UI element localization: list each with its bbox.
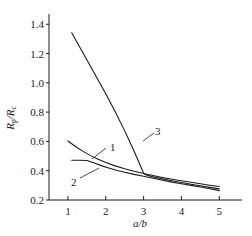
data-series-group <box>68 33 219 191</box>
leader-line-2 <box>80 168 99 178</box>
axis-lines <box>49 14 242 200</box>
leader-line-3 <box>143 133 154 141</box>
x-axis-title: a/b <box>133 218 147 229</box>
y-tick-label: 1.4 <box>18 19 44 30</box>
curve-label-2: 2 <box>71 177 77 188</box>
data-curve-2 <box>72 160 220 190</box>
y-tick-label: 0.4 <box>18 165 44 176</box>
y-axis-title-text: Rp/Rc <box>5 106 16 130</box>
x-tick-label: 5 <box>217 206 223 217</box>
data-curve-1 <box>68 141 219 187</box>
x-axis-ticks <box>68 196 219 200</box>
x-tick-label: 1 <box>65 206 71 217</box>
y-axis-title: Rp/Rc <box>2 88 18 148</box>
chart-figure: 0.20.40.60.81.01.21.4 12345 123 Rp/Rc a/… <box>0 0 252 236</box>
y-tick-label: 0.2 <box>18 195 44 206</box>
x-tick-label: 4 <box>179 206 185 217</box>
curve-label-3: 3 <box>155 126 161 137</box>
y-tick-label: 1.2 <box>18 48 44 59</box>
x-tick-label: 3 <box>141 206 147 217</box>
data-curve-3 <box>72 33 220 189</box>
leader-line-1 <box>92 148 106 159</box>
y-tick-label: 0.8 <box>18 107 44 118</box>
curve-label-1: 1 <box>110 142 116 153</box>
y-tick-label: 0.6 <box>18 136 44 147</box>
y-tick-label: 1.0 <box>18 77 44 88</box>
x-tick-label: 2 <box>103 206 109 217</box>
